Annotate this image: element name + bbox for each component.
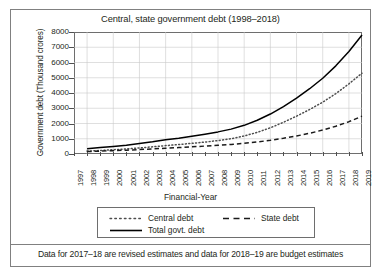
x-axis-tick-label: 2015 xyxy=(313,170,321,186)
x-axis-tick-mark xyxy=(270,152,271,156)
x-axis-tick-label: 2019 xyxy=(365,170,373,186)
x-axis-tick-label: 2010 xyxy=(247,170,255,186)
x-axis-tick-label: 1998 xyxy=(90,170,98,186)
x-axis-tick-mark xyxy=(323,152,324,156)
y-axis-tick-label: 8000 xyxy=(51,28,69,36)
x-axis-tick-mark xyxy=(192,152,193,156)
y-axis-tick-label: 5000 xyxy=(51,74,69,82)
y-axis-tick-mark xyxy=(69,108,74,109)
series-line xyxy=(87,116,362,151)
legend-entry-total-govt-debt: Total govt. debt xyxy=(109,225,204,235)
x-axis-tick-labels: 1997199819992000200120022003200420052006… xyxy=(74,156,362,190)
x-axis-tick-label: 2001 xyxy=(130,170,138,186)
legend-label-central-debt: Central debt xyxy=(148,213,193,223)
y-axis-tick-mark xyxy=(69,47,74,48)
plot-area xyxy=(74,32,362,154)
y-axis-tick-label: 4000 xyxy=(51,89,69,97)
data-series-layer xyxy=(74,32,362,154)
x-axis-tick-mark xyxy=(153,152,154,156)
y-axis-tick-mark xyxy=(69,124,74,125)
chart-legend: Central debt State debt Total govt. debt xyxy=(97,207,315,238)
x-axis-tick-mark xyxy=(310,152,311,156)
chart-title: Central, state government debt (1998–201… xyxy=(11,14,370,24)
y-axis-tick-labels: 010002000300040005000600070008000 xyxy=(35,32,69,154)
x-axis-tick-label: 2009 xyxy=(234,170,242,186)
x-axis-tick-mark xyxy=(297,152,298,156)
y-axis-tick-mark xyxy=(69,139,74,140)
x-axis-tick-mark xyxy=(100,152,101,156)
x-axis-tick-mark xyxy=(257,152,258,156)
x-axis-tick-mark xyxy=(218,152,219,156)
y-axis-tick-mark xyxy=(69,78,74,79)
x-axis-tick-label: 2007 xyxy=(208,170,216,186)
y-axis-tick-label: 3000 xyxy=(51,104,69,112)
x-axis-tick-label: 2014 xyxy=(300,170,308,186)
x-axis-tick-mark xyxy=(244,152,245,156)
x-axis-tick-label: 1999 xyxy=(103,170,111,186)
x-axis-tick-mark xyxy=(139,152,140,156)
legend-entry-state-debt: State debt xyxy=(222,213,299,223)
x-axis-tick-mark xyxy=(113,152,114,156)
x-axis-tick-label: 2006 xyxy=(195,170,203,186)
legend-entry-central-debt: Central debt xyxy=(109,213,193,223)
x-axis-tick-label: 2003 xyxy=(156,170,164,186)
y-axis-tick-label: 7000 xyxy=(51,43,69,51)
x-axis-tick-label: 2016 xyxy=(326,170,334,186)
y-axis-tick-mark xyxy=(69,63,74,64)
x-axis-tick-label: 2008 xyxy=(221,170,229,186)
x-axis-tick-mark xyxy=(74,152,75,156)
chart-footnote: Data for 2017–18 are revised estimates a… xyxy=(11,249,370,259)
x-axis-tick-mark xyxy=(336,152,337,156)
y-axis-tick-mark xyxy=(69,32,74,33)
footnote-divider xyxy=(11,244,370,245)
legend-label-state-debt: State debt xyxy=(261,213,299,223)
x-axis-tick-mark xyxy=(283,152,284,156)
series-line xyxy=(87,35,362,149)
y-axis-tick-label: 2000 xyxy=(51,120,69,128)
x-axis-tick-mark xyxy=(126,152,127,156)
x-axis-tick-label: 2018 xyxy=(352,170,360,186)
y-axis-tick-label: 1000 xyxy=(51,135,69,143)
y-axis-tick-label: 6000 xyxy=(51,59,69,67)
x-axis-tick-label: 2017 xyxy=(339,170,347,186)
dotted-line-icon xyxy=(109,214,143,223)
x-axis-tick-mark xyxy=(166,152,167,156)
x-axis-tick-label: 1997 xyxy=(77,170,85,186)
x-axis-tick-label: 2004 xyxy=(169,170,177,186)
x-axis-tick-mark xyxy=(349,152,350,156)
x-axis-tick-mark xyxy=(205,152,206,156)
x-axis-tick-label: 2000 xyxy=(116,170,124,186)
x-axis-tick-mark xyxy=(362,152,363,156)
x-axis-tick-label: 2011 xyxy=(260,170,268,186)
x-axis-tick-mark xyxy=(87,152,88,156)
x-axis-tick-label: 2005 xyxy=(182,170,190,186)
x-axis-tick-label: 2013 xyxy=(287,170,295,186)
chart-figure: Central, state government debt (1998–201… xyxy=(10,9,371,267)
x-axis-title: Financial-Year xyxy=(11,192,370,202)
x-axis-tick-mark xyxy=(231,152,232,156)
x-axis-tick-label: 2012 xyxy=(274,170,282,186)
dashed-line-icon xyxy=(222,214,256,223)
legend-label-total-govt-debt: Total govt. debt xyxy=(148,225,204,235)
series-line xyxy=(87,73,362,151)
solid-line-icon xyxy=(109,226,143,235)
x-axis-tick-mark xyxy=(179,152,180,156)
y-axis-tick-mark xyxy=(69,154,74,155)
x-axis-tick-label: 2002 xyxy=(143,170,151,186)
y-axis-tick-mark xyxy=(69,93,74,94)
